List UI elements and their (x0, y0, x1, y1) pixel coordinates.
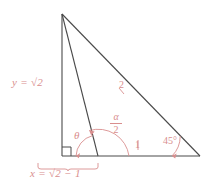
label-angle-theta: θ (74, 130, 79, 141)
cevian-line (62, 14, 98, 156)
label-left-leg: y = √2 (12, 77, 43, 88)
right-angle-marker (62, 147, 71, 156)
alpha-numerator: α (110, 112, 122, 122)
hypotenuse-line (62, 14, 200, 156)
geometry-figure: y = √2 2 1 45° θ α 2 x = √2 − 1 (0, 0, 211, 191)
label-cevian-length: 2 (119, 80, 124, 90)
alpha-denominator: 2 (110, 125, 122, 135)
alpha-half-arc-arrowhead (89, 131, 94, 136)
diagram-svg (0, 0, 211, 191)
label-base-left: x = √2 − 1 (30, 168, 81, 179)
label-base-right-length: 1 (135, 140, 140, 150)
label-angle-alpha-half: α 2 (110, 112, 122, 135)
label-angle-45: 45° (163, 136, 177, 146)
triangle-outline (62, 14, 200, 156)
